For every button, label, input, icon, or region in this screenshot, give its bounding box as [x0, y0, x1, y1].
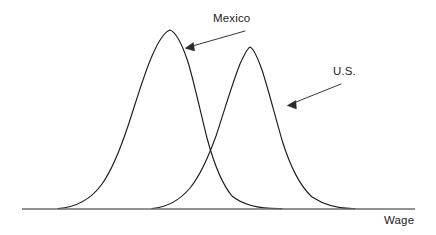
wage-axis-label: Wage	[384, 215, 414, 227]
us-density-curve	[152, 47, 355, 209]
mexico-leader-group	[185, 31, 245, 51]
us-curve-label: U.S.	[333, 66, 356, 78]
mexico-density-curve	[58, 30, 282, 209]
mexico-curve-label: Mexico	[213, 13, 250, 25]
us-leader-group	[287, 84, 341, 109]
us-arrowhead-icon	[287, 101, 296, 109]
mexico-arrowhead-icon	[185, 43, 194, 51]
distribution-plot-canvas	[0, 0, 436, 235]
us-leader-line	[291, 84, 341, 104]
mexico-leader-line	[189, 31, 245, 47]
wage-distribution-figure: Mexico U.S. Wage	[0, 0, 436, 235]
